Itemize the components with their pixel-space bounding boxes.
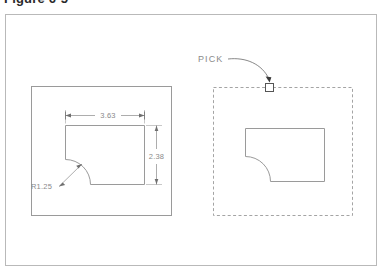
left-viewport-rect [32, 87, 172, 216]
left-profile-outline [66, 126, 145, 185]
right-panel-selection-view: PICK [198, 54, 353, 216]
left-panel-dimensioned-view: 3.63 2.38 R1.25 [31, 87, 172, 216]
dimension-label-radius: R1.25 [31, 182, 52, 191]
arrowhead-height-bottom [155, 179, 159, 185]
radius-arrowhead-outer [59, 182, 65, 186]
pick-leader-arrowhead [266, 77, 272, 83]
arrowhead-width-left [66, 114, 72, 118]
figure-screenshot: Figure 6-5 3.63 [0, 0, 387, 278]
right-profile-outline [246, 129, 325, 182]
dimension-label-width: 3.63 [100, 111, 115, 120]
arrowhead-height-top [155, 126, 159, 132]
arrowhead-width-right [139, 114, 145, 118]
drawing-canvas: 3.63 2.38 R1.25 [0, 0, 387, 278]
grip-square[interactable] [266, 84, 274, 92]
pick-leader-curve [228, 59, 269, 79]
selection-dashed-rect[interactable] [214, 88, 353, 216]
pick-label: PICK [198, 54, 223, 64]
radius-arrowhead-inner [76, 164, 82, 168]
dimension-label-height: 2.38 [149, 152, 164, 161]
